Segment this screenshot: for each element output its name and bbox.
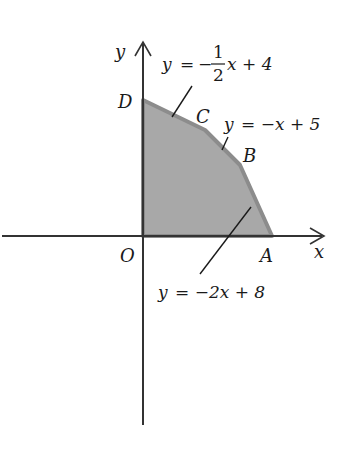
svg-text:−: −	[198, 54, 212, 74]
y-axis-label: y	[114, 41, 126, 62]
linear-programming-diagram: y x O D C B A y = − 1 2 x + 4 y = −x + 5…	[0, 0, 354, 452]
diagram-canvas: y x O D C B A y = − 1 2 x + 4 y = −x + 5…	[0, 0, 354, 452]
leader-line-1	[172, 86, 192, 117]
equation-line-2: y = −x + 5	[223, 114, 320, 134]
origin-label: O	[120, 245, 135, 266]
point-label-a: A	[258, 245, 273, 266]
svg-text:x + 4: x + 4	[227, 54, 272, 74]
svg-text:1: 1	[213, 42, 224, 62]
point-label-c: C	[196, 106, 210, 127]
point-label-d: D	[117, 91, 133, 112]
svg-text:y: y	[157, 282, 168, 302]
equation-line-3: y = −2x + 8	[157, 282, 265, 302]
svg-text:2: 2	[213, 65, 224, 85]
point-label-b: B	[242, 145, 256, 166]
svg-text:= −x + 5: = −x + 5	[241, 114, 320, 134]
x-axis-label: x	[314, 241, 324, 262]
svg-text:=: =	[180, 54, 194, 74]
svg-text:y: y	[161, 54, 172, 74]
svg-text:y: y	[223, 114, 234, 134]
equation-line-1: y = − 1 2 x + 4	[161, 42, 272, 85]
svg-text:= −2x + 8: = −2x + 8	[175, 282, 265, 302]
